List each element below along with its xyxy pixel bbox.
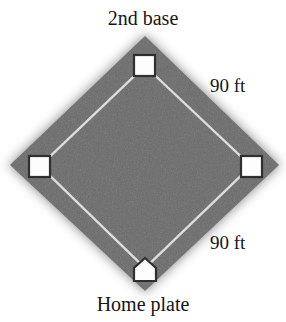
label-home-plate: Home plate bbox=[0, 294, 286, 314]
label-distance-upper-right: 90 ft bbox=[210, 76, 245, 95]
diamond-diagram bbox=[0, 0, 286, 322]
label-distance-lower-right: 90 ft bbox=[210, 233, 245, 252]
base-marker-second bbox=[134, 55, 155, 76]
base-marker-third bbox=[29, 156, 50, 177]
base-marker-first bbox=[241, 156, 262, 177]
baseball-diamond-figure: 2nd base 90 ft 90 ft Home plate bbox=[0, 0, 286, 322]
label-second-base: 2nd base bbox=[0, 8, 286, 28]
